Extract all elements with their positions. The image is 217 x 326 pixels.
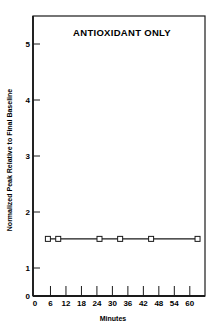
data-point-marker xyxy=(118,236,123,241)
data-point-marker xyxy=(45,236,50,241)
x-tick-label: 12 xyxy=(62,299,71,308)
chart: ANTIOXIDANT ONLY 012345 0612182430364248… xyxy=(0,0,217,326)
x-tick-label: 0 xyxy=(33,299,38,308)
y-tick-label: 4 xyxy=(26,96,31,105)
y-tick-label: 3 xyxy=(26,152,31,161)
data-point-marker xyxy=(149,236,154,241)
plot-border xyxy=(33,16,205,296)
y-axis-label: Normalized Peak Relative to Final Baseli… xyxy=(6,89,13,231)
x-tick-label: 18 xyxy=(77,299,86,308)
y-tick-label: 5 xyxy=(26,40,31,49)
y-tick-label: 2 xyxy=(26,208,31,217)
chart-title: ANTIOXIDANT ONLY xyxy=(73,27,171,38)
x-tick-label: 6 xyxy=(48,299,53,308)
data-point-marker xyxy=(97,236,102,241)
x-tick-label: 54 xyxy=(170,299,179,308)
x-tick-label: 30 xyxy=(108,299,117,308)
x-tick-label: 42 xyxy=(139,299,148,308)
x-axis-ticks: 06121824303642485460 xyxy=(33,286,195,308)
x-tick-label: 60 xyxy=(185,299,194,308)
data-series xyxy=(45,236,200,241)
data-point-marker xyxy=(56,236,61,241)
x-tick-label: 48 xyxy=(154,299,163,308)
x-tick-label: 24 xyxy=(92,299,101,308)
x-axis-label: Minutes xyxy=(100,315,127,322)
y-tick-label: 1 xyxy=(26,264,31,273)
data-point-marker xyxy=(195,236,200,241)
y-tick-label: 0 xyxy=(26,292,31,301)
plot-frame xyxy=(33,16,205,296)
x-tick-label: 36 xyxy=(123,299,132,308)
